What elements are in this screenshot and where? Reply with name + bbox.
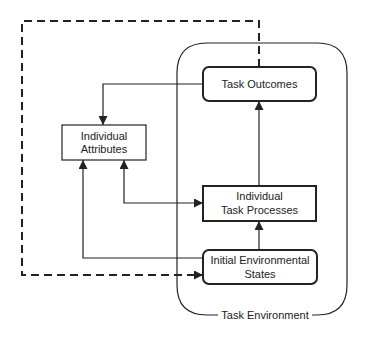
diagram: Task Environment Task Outcomes Individua… xyxy=(0,0,366,337)
node-individual-attributes-line2: Attributes xyxy=(81,143,128,155)
node-initial-environmental-states-line1: Initial Environmental xyxy=(210,254,309,266)
node-individual-task-processes: Individual Task Processes xyxy=(203,186,316,221)
edge-outcomes-to-attributes xyxy=(103,84,203,125)
node-initial-environmental-states: Initial Environmental States xyxy=(203,250,317,284)
node-individual-attributes: Individual Attributes xyxy=(62,125,146,160)
node-task-outcomes-label: Task Outcomes xyxy=(222,78,298,90)
node-task-outcomes: Task Outcomes xyxy=(203,67,316,101)
edge-states-to-attributes xyxy=(83,160,203,258)
node-individual-task-processes-line1: Individual xyxy=(236,190,282,202)
node-individual-task-processes-line2: Task Processes xyxy=(221,204,299,216)
node-individual-attributes-line1: Individual xyxy=(81,130,127,142)
edge-attributes-processes xyxy=(124,160,203,203)
node-initial-environmental-states-line2: States xyxy=(244,268,276,280)
task-environment-label: Task Environment xyxy=(221,309,308,321)
